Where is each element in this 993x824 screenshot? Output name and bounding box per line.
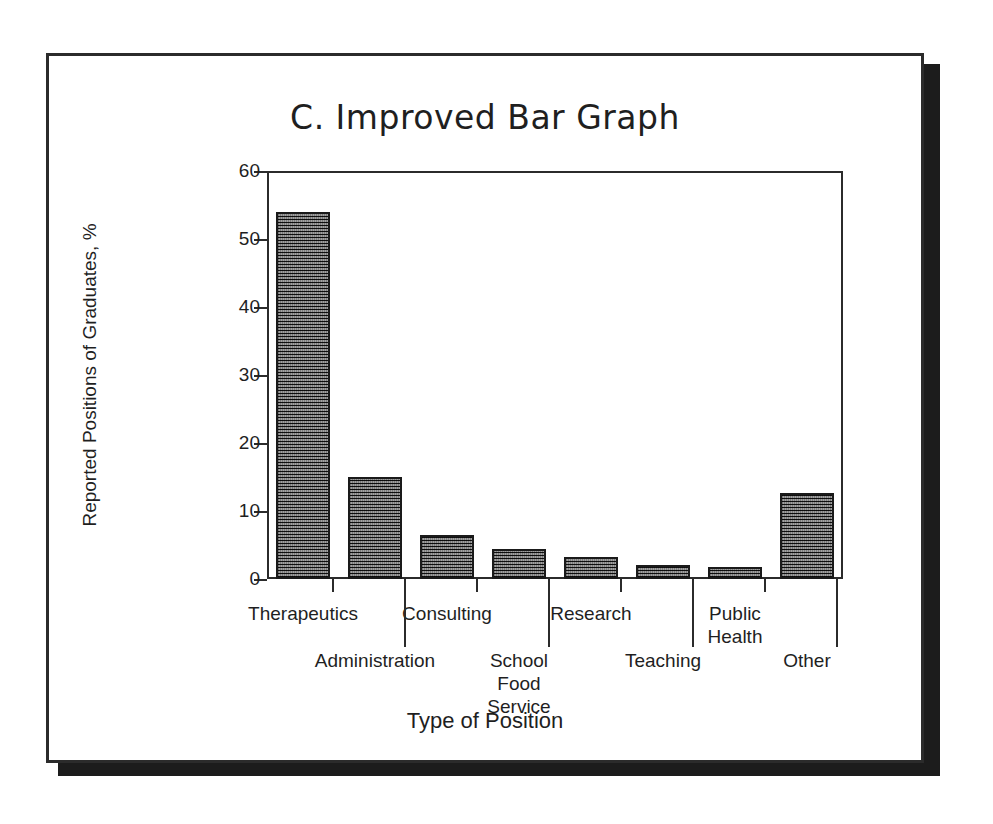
x-axis-leader-line	[692, 592, 694, 647]
bar	[780, 493, 835, 579]
x-axis-category-label: Research	[550, 602, 631, 625]
x-axis-category-label: Consulting	[402, 602, 492, 625]
x-axis-tick-mark	[764, 579, 766, 592]
chart-title: C. Improved Bar Graph	[49, 98, 921, 137]
bar	[636, 565, 691, 579]
y-axis-tick-label: 30	[239, 364, 260, 386]
y-axis-tick-label: 60	[239, 160, 260, 182]
x-axis-category-label: Administration	[315, 649, 435, 672]
x-axis-category-label: Public Health	[708, 602, 763, 648]
bar	[492, 549, 547, 579]
bar	[348, 477, 403, 579]
bar	[420, 535, 475, 579]
x-axis-tick-mark	[692, 579, 694, 592]
x-axis-title: Type of Position	[49, 708, 921, 734]
x-axis-tick-mark	[548, 579, 550, 592]
y-axis-tick-label: 20	[239, 432, 260, 454]
y-axis-tick-label: 50	[239, 228, 260, 250]
bar	[564, 557, 619, 579]
slide-canvas: C. Improved Bar Graph Reported Positions…	[46, 53, 924, 763]
x-axis-leader-line	[836, 592, 838, 647]
plot-area: 0102030405060	[267, 171, 843, 579]
x-axis-tick-mark	[836, 579, 838, 592]
x-axis-leader-line	[548, 592, 550, 647]
y-axis-tick-label: 40	[239, 296, 260, 318]
x-axis-tick-mark	[620, 579, 622, 592]
x-axis-tick-mark	[332, 579, 334, 592]
y-axis-tick-label: 0	[249, 568, 260, 590]
y-axis-title: Reported Positions of Graduates, %	[76, 171, 104, 579]
x-axis-tick-mark	[476, 579, 478, 592]
y-axis-title-text: Reported Positions of Graduates, %	[79, 223, 101, 526]
x-axis-category-label: Teaching	[625, 649, 701, 672]
bar	[708, 567, 763, 579]
bar-series	[267, 171, 843, 579]
x-axis-category-label: Therapeutics	[248, 602, 358, 625]
y-axis-tick-label: 10	[239, 500, 260, 522]
bar	[276, 212, 331, 579]
x-axis-leader-line	[404, 592, 406, 647]
x-axis-category-label: Other	[783, 649, 831, 672]
x-axis-tick-mark	[404, 579, 406, 592]
